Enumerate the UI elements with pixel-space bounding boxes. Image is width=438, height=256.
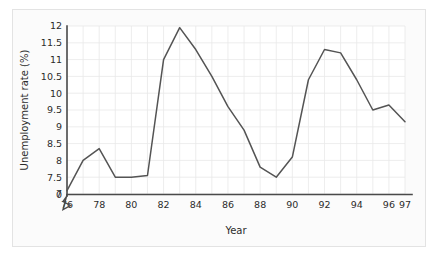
line-chart: 077.588.599.51010.51111.512 767880828486… [0, 0, 438, 256]
x-tick-label: 80 [125, 199, 137, 210]
y-axis-tick-labels: 077.588.599.51010.51111.512 [41, 20, 62, 199]
x-tick-label: 94 [351, 199, 363, 210]
y-tick-label: 10.5 [41, 71, 62, 82]
x-tick-label: 92 [318, 199, 330, 210]
x-tick-label: 86 [222, 199, 234, 210]
y-tick-label: 8 [56, 155, 62, 166]
x-tick-label: 82 [158, 199, 170, 210]
y-axis-title: Unemployment rate (%) [19, 49, 30, 170]
x-tick-label: 90 [286, 199, 298, 210]
x-tick-label: 84 [190, 199, 202, 210]
y-tick-label: 12 [50, 20, 62, 31]
x-tick-label: 97 [399, 199, 411, 210]
y-tick-label: 9.5 [47, 104, 62, 115]
x-axis-title: Year [224, 225, 247, 236]
x-tick-label: 96 [383, 199, 395, 210]
x-tick-label: 78 [93, 199, 105, 210]
y-tick-label: 7.5 [47, 172, 62, 183]
x-axis-tick-labels: 767880828486889092949697 [61, 199, 411, 210]
y-tick-label: 8.5 [47, 138, 62, 149]
y-tick-label: 11.5 [41, 37, 62, 48]
y-tick-label: 7 [56, 188, 62, 199]
y-tick-label: 10 [50, 88, 62, 99]
y-tick-label: 9 [56, 121, 62, 132]
chart-figure: 077.588.599.51010.51111.512 767880828486… [0, 0, 438, 256]
x-tick-label: 88 [254, 199, 266, 210]
y-tick-label: 11 [50, 54, 62, 65]
